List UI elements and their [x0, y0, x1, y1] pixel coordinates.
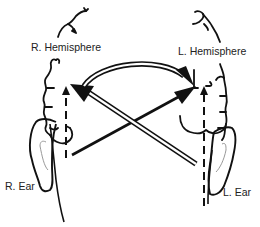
- interhemispheric-pathway: [84, 64, 194, 86]
- arrowhead-icon: [174, 86, 196, 104]
- arrowhead-icon: [176, 66, 194, 86]
- right-ear: [30, 119, 64, 222]
- arrowhead-icon: [200, 86, 208, 95]
- right-head-outline: [43, 8, 88, 143]
- auditory-pathway-diagram: [0, 0, 260, 227]
- ipsilateral-right-pathway: [62, 86, 70, 158]
- ipsilateral-left-pathway: [200, 86, 208, 206]
- right-hemisphere-label: R. Hemisphere: [31, 42, 101, 53]
- left-ear-inner: [216, 143, 226, 172]
- left-hemisphere-label: L. Hemisphere: [178, 46, 246, 57]
- arrowhead-icon: [62, 86, 70, 95]
- left-ear-outline: [209, 127, 236, 195]
- left-ear-label: L. Ear: [223, 187, 251, 198]
- right-ear-label: R. Ear: [5, 181, 35, 192]
- right-ear-inner: [40, 141, 48, 170]
